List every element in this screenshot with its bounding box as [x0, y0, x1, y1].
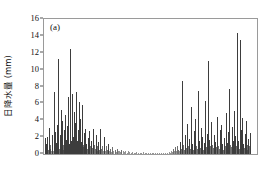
precipitation-bar [182, 81, 183, 154]
precipitation-bar [153, 153, 154, 154]
y-axis-tick-label: 16 [18, 14, 39, 23]
precipitation-bar [165, 153, 166, 154]
y-axis-tick-labels: 0246810121416 [18, 0, 39, 171]
precipitation-figure: 日降水量 (mm) 0246810121416 (a) [0, 0, 268, 171]
plot-area: (a) [43, 18, 258, 155]
y-axis-title-text: 日降水量 (mm) [4, 55, 13, 117]
y-axis-tick-label: 10 [18, 64, 39, 73]
y-axis-tick-label: 2 [18, 132, 39, 141]
y-axis-tick-label: 12 [18, 48, 39, 57]
precipitation-bar [167, 153, 168, 154]
precipitation-bar [157, 153, 158, 154]
precipitation-bar [237, 33, 238, 154]
precipitation-bar [161, 153, 162, 154]
y-axis-tick-label: 8 [18, 81, 39, 90]
y-axis-tick-label: 14 [18, 31, 39, 40]
precipitation-bar [250, 133, 251, 154]
y-axis-tick-label: 0 [18, 149, 39, 158]
precipitation-bars [44, 19, 257, 154]
precipitation-bar [163, 153, 164, 154]
y-axis-tick-label: 6 [18, 98, 39, 107]
y-axis-tick-label: 4 [18, 115, 39, 124]
